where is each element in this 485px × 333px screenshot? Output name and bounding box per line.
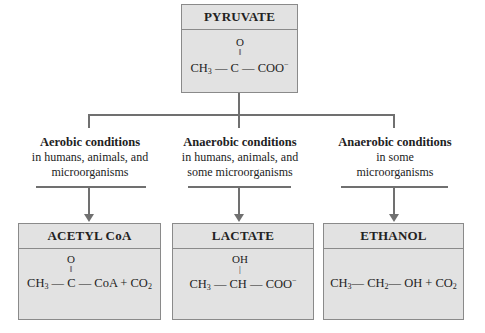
lactate-hydroxyl: OH | bbox=[230, 254, 250, 274]
arrow-shaft-ethanol bbox=[393, 187, 395, 215]
ethanol-formula: CH3— CH2— OH + CO2 bbox=[324, 276, 463, 291]
connector-horizontal bbox=[88, 114, 395, 116]
pyruvate-oxygen: O ‖ bbox=[234, 37, 246, 57]
pyruvate-title: PYRUVATE bbox=[182, 5, 297, 30]
ethanol-box: ETHANOL CH3— CH2— OH + CO2 bbox=[323, 223, 464, 320]
connector-trunk bbox=[238, 93, 240, 115]
arrow-shaft-lactate bbox=[238, 187, 240, 215]
connector-left-drop bbox=[88, 114, 90, 128]
acetyl-coa-formula: CH3 — C — CoA + CO2 bbox=[19, 276, 160, 291]
pyruvate-box: PYRUVATE O ‖ CH3 — C — COO− bbox=[181, 4, 298, 93]
condition-anaerobic-ethanol: Anaerobic conditions in some microorgani… bbox=[325, 135, 465, 180]
acetyl-coa-box: ACETYL CoA O ‖ CH3 — C — CoA + CO2 bbox=[18, 223, 161, 320]
lactate-box: LACTATE OH | CH3 — CH — COO− bbox=[172, 223, 314, 320]
arrow-shaft-acetyl bbox=[88, 187, 90, 215]
connector-mid-drop bbox=[238, 114, 240, 128]
arrow-down-icon bbox=[234, 214, 244, 222]
acetyl-oxygen: O ‖ bbox=[65, 254, 77, 274]
condition-aerobic: Aerobic conditions in humans, animals, a… bbox=[20, 135, 160, 180]
arrow-down-icon bbox=[389, 214, 399, 222]
condition-anaerobic-lactate: Anaerobic conditions in humans, animals,… bbox=[170, 135, 310, 180]
pyruvate-formula: CH3 — C — COO− bbox=[182, 60, 297, 76]
arrow-down-icon bbox=[84, 214, 94, 222]
lactate-formula: CH3 — CH — COO− bbox=[173, 276, 313, 292]
lactate-title: LACTATE bbox=[173, 224, 313, 249]
ethanol-title: ETHANOL bbox=[324, 224, 463, 249]
acetyl-coa-title: ACETYL CoA bbox=[19, 224, 160, 249]
separator-aerobic bbox=[36, 186, 146, 188]
connector-right-drop bbox=[393, 114, 395, 128]
